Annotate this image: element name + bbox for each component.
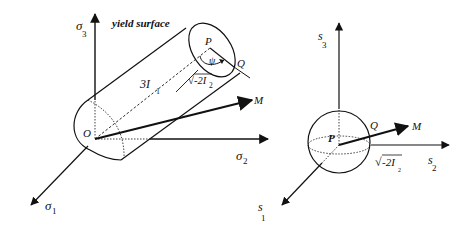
yield-surface-diagram: yield surface σ 3 σ 2 σ 1 O P Q M ψ 3I 1…: [0, 0, 475, 237]
center-P-label: P: [204, 35, 212, 47]
vector-tip-M-label: M: [411, 120, 422, 132]
radius-radical-sign: √: [375, 155, 382, 169]
axis-length-subscript: 1: [156, 87, 160, 96]
radius-label: -2I: [194, 75, 207, 86]
surface-point-Q-label: Q: [237, 57, 245, 69]
sigma2-subscript: 2: [243, 156, 248, 166]
sigma2-label: σ: [236, 148, 243, 163]
radius-label: -2I: [382, 156, 396, 168]
origin-O-label: O: [83, 127, 91, 139]
stress-vector-OM: [95, 100, 252, 139]
cylinder-upper-edge: [88, 28, 186, 100]
sigma1-label: σ: [45, 198, 52, 213]
s3-subscript: 3: [322, 40, 327, 50]
surface-point-Q-label: Q: [370, 119, 378, 131]
sigma1-axis: [31, 146, 88, 205]
s1-label: s: [258, 200, 263, 214]
vector-tip-M-label: M: [253, 94, 264, 106]
s1-axis: [282, 163, 322, 205]
sigma1-subscript: 1: [52, 206, 57, 216]
cylinder-bottom-arc: [74, 100, 121, 160]
radius-subscript: 2: [398, 167, 401, 173]
cylinder-bottom-hidden-arc: [88, 100, 124, 158]
deviatoric-space-panel: s 3 s 2 s 1 P Q M √ -2I 2: [258, 23, 449, 223]
s2-subscript: 2: [432, 163, 437, 173]
sigma3-subscript: 3: [82, 29, 87, 39]
s1-subscript: 1: [261, 213, 266, 223]
cylinder-lower-edge: [121, 73, 240, 160]
psi-angle-arrowhead: [219, 59, 224, 64]
center-P-label: P: [328, 132, 335, 144]
yield-surface-label: yield surface: [110, 17, 170, 29]
axis-length-label: 3I: [139, 77, 151, 91]
psi-angle-label: ψ: [209, 55, 216, 66]
principal-stress-space-panel: yield surface σ 3 σ 2 σ 1 O P Q M ψ 3I 1…: [31, 14, 268, 216]
radius-subscript: 2: [209, 81, 213, 90]
